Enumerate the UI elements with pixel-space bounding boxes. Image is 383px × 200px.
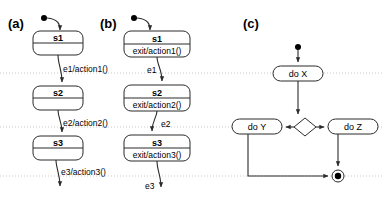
state-name-label: s1: [152, 34, 162, 44]
panel-b-label: (b): [100, 16, 117, 31]
final-node-inner-dot: [335, 173, 341, 179]
panel-c-label: (c): [243, 16, 259, 31]
panel-a-initial-state: [41, 15, 47, 21]
panel-a: (a) s1 e1/action1() s2 e2/action2(): [8, 15, 108, 186]
panel-b-state-s2: s2 exit/action2(): [124, 85, 190, 111]
figure-canvas: (a) s1 e1/action1() s2 e2/action2(): [0, 0, 383, 200]
panel-c: (c) do X do Y: [232, 16, 378, 182]
state-name-label: s3: [53, 138, 63, 148]
panel-c-activity-do-y: do Y: [232, 119, 282, 134]
panel-a-state-s3: s3: [33, 136, 83, 160]
activity-label: do Z: [344, 122, 363, 132]
panel-b-transition-3: [157, 161, 161, 187]
panel-a-transition-2: [58, 110, 62, 132]
panel-b-transition-1: [157, 57, 162, 81]
state-activity-label: exit/action1(): [133, 46, 182, 56]
state-name-label: s1: [53, 33, 63, 43]
panel-c-edge-doy-to-final: [248, 134, 328, 176]
panel-b-state-s1: s1 exit/action1(): [124, 31, 190, 57]
panel-a-transition-1: [58, 55, 62, 82]
panel-b-transition-2-label: e2: [161, 119, 171, 129]
panel-a-state-s2: s2: [33, 86, 83, 110]
panel-b: (b) s1 exit/action1() e1 s2 exit/action2…: [100, 15, 190, 191]
panel-b-initial-transition: [137, 18, 150, 30]
state-activity-label: exit/action3(): [133, 150, 182, 160]
state-activity-label: exit/action2(): [133, 100, 182, 110]
panel-a-transition-1-label: e1/action1(): [63, 64, 108, 74]
activity-label: do X: [289, 69, 308, 79]
state-name-label: s2: [152, 88, 162, 98]
panel-c-initial-node: [295, 44, 301, 50]
activity-label: do Y: [248, 122, 266, 132]
state-name-label: s2: [53, 88, 63, 98]
panel-c-activity-do-x: do X: [273, 66, 323, 81]
panel-c-final-node: [332, 170, 344, 182]
panel-b-transition-2: [152, 111, 157, 131]
diagram-svg: (a) s1 e1/action1() s2 e2/action2(): [0, 0, 383, 200]
state-name-label: s3: [152, 138, 162, 148]
panel-b-transition-3-label: e3: [145, 181, 155, 191]
panel-c-activity-do-z: do Z: [328, 119, 378, 134]
panel-a-transition-3-label: e3/action3(): [61, 167, 106, 177]
panel-a-label: (a): [8, 16, 24, 31]
panel-a-state-s1: s1: [33, 31, 83, 55]
panel-b-transition-1-label: e1: [147, 65, 157, 75]
panel-b-initial-state: [131, 15, 137, 21]
panel-a-transition-3: [56, 160, 60, 186]
panel-a-initial-transition: [47, 18, 60, 30]
panel-c-decision-diamond: [294, 118, 316, 136]
panel-a-transition-2-label: e2/action2(): [63, 118, 108, 128]
panel-b-state-s3: s3 exit/action3(): [124, 135, 190, 161]
